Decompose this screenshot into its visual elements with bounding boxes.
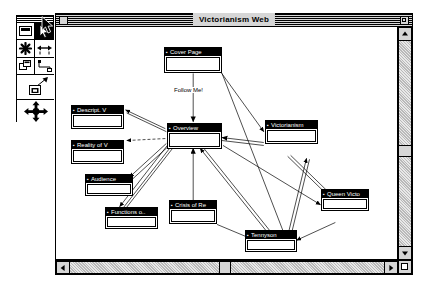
node-title: ▪Queen Victo xyxy=(322,190,368,198)
map-node[interactable]: ▪Audience xyxy=(85,174,133,196)
mouse-cursor xyxy=(41,16,55,38)
node-title: ▪Overview xyxy=(168,124,221,132)
map-node[interactable]: ▪Cover Page xyxy=(164,47,222,73)
node-title: ▪Audience xyxy=(86,175,132,183)
text-box-icon xyxy=(19,26,32,36)
map-node[interactable]: ▪Tennyson xyxy=(245,230,297,252)
note-tool[interactable] xyxy=(17,40,35,58)
node-title: ▪Tennyson xyxy=(246,231,296,239)
asterisk-icon xyxy=(19,42,32,55)
hand-tool[interactable] xyxy=(17,100,54,123)
text-tool[interactable] xyxy=(17,23,35,40)
drop-into-box-icon xyxy=(23,76,49,98)
path-tool[interactable] xyxy=(35,58,54,75)
node-body xyxy=(169,133,220,147)
node-body xyxy=(73,150,122,162)
link-label: Follow Me! xyxy=(173,87,204,93)
window-title: Victorianism Web xyxy=(193,13,275,26)
stack-tool[interactable] xyxy=(17,58,35,75)
node-title: ▪Cover Page xyxy=(165,48,221,56)
node-title: ▪Victorianism xyxy=(266,121,317,129)
map-node[interactable]: ▪Functions o.. xyxy=(105,207,158,229)
link-arrows-icon xyxy=(37,43,52,55)
node-body xyxy=(171,210,215,222)
node-body xyxy=(166,57,220,71)
node-body xyxy=(107,217,156,227)
scroll-up-arrow[interactable] xyxy=(398,27,412,41)
node-title: ▪Descript. V xyxy=(72,106,123,114)
grow-box[interactable] xyxy=(398,260,412,274)
node-body xyxy=(247,240,295,250)
stacked-boxes-icon xyxy=(19,60,32,72)
screen: Victorianism Web xyxy=(0,0,425,287)
scroll-down-arrow[interactable] xyxy=(398,246,412,260)
horizontal-scroll-thumb[interactable] xyxy=(219,261,231,274)
horizontal-scrollbar[interactable] xyxy=(56,260,398,274)
map-window: Victorianism Web xyxy=(55,13,413,275)
elbow-link-icon xyxy=(38,60,52,72)
node-body xyxy=(323,199,367,209)
link-tool[interactable] xyxy=(35,40,54,58)
node-body xyxy=(73,115,122,127)
node-body xyxy=(267,130,316,142)
node-title: ▪Reality of V xyxy=(72,141,123,149)
vertical-scrollbar[interactable] xyxy=(398,27,412,260)
vertical-scroll-track[interactable] xyxy=(398,40,412,247)
map-node[interactable]: ▪Queen Victo xyxy=(321,189,369,211)
map-node[interactable]: ▪Overview xyxy=(167,123,222,149)
close-box[interactable] xyxy=(59,16,68,25)
node-title: ▪Crisis of Re xyxy=(170,201,216,209)
map-node[interactable]: ▪Descript. V xyxy=(71,105,124,129)
map-node[interactable]: ▪Reality of V xyxy=(71,140,124,164)
node-body xyxy=(87,184,131,194)
arrow-cursor-icon xyxy=(41,16,55,34)
scroll-right-arrow[interactable] xyxy=(384,261,398,274)
zoom-box[interactable] xyxy=(400,16,409,25)
map-canvas[interactable]: ▪Cover Page ▪Descript. V ▪Reality of V ▪… xyxy=(56,27,398,260)
scroll-left-arrow[interactable] xyxy=(56,261,70,274)
node-title: ▪Functions o.. xyxy=(106,208,157,216)
window-titlebar[interactable]: Victorianism Web xyxy=(56,14,412,27)
four-way-move-icon xyxy=(24,101,48,122)
vertical-scroll-thumb[interactable] xyxy=(398,145,412,157)
create-tool[interactable] xyxy=(17,75,54,100)
map-node[interactable]: ▪Victorianism xyxy=(265,120,318,144)
map-node[interactable]: ▪Crisis of Re xyxy=(169,200,217,224)
